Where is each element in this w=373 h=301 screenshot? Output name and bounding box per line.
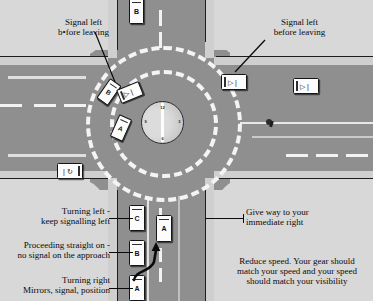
island-label-6: 6: [142, 136, 183, 141]
edge-line-west-top: [0, 56, 108, 57]
edge-line-south-left: [117, 190, 118, 301]
leader-give-way-tick: [243, 214, 244, 223]
centre-dash-w3: [0, 104, 22, 107]
lane-line-east: [240, 122, 373, 124]
vehicle-window: [296, 81, 298, 91]
annotation-turning-left: Turning left - keep signalling left: [12, 206, 110, 226]
centre-dash-w1: [34, 104, 56, 107]
centre-dash-e3: [346, 154, 368, 157]
vehicle-label: A: [114, 123, 128, 134]
marking-west-bottom: [8, 154, 86, 157]
verge-south-right: [205, 178, 214, 301]
leader-turning-right: [109, 288, 133, 289]
island-label-9: 9: [145, 119, 147, 124]
vehicle-indicator: ▷ |: [300, 83, 309, 90]
vehicle-window: [78, 166, 80, 176]
roundabout-diagram: 12 3 6 9 B B ▷ | A ▷ | ▷ | | ↻ C: [0, 0, 373, 301]
vehicle-window: [120, 119, 128, 124]
annotation-signal-left-before-leaving-right: Signal left before leaving: [247, 17, 352, 37]
vehicle-exit-right-2: ▷ |: [293, 78, 319, 94]
leader-signal-left-b: [95, 30, 125, 88]
vehicle-exit-right-1: ▷ |: [221, 74, 247, 90]
verge-west-top: [0, 57, 108, 65]
annotation-signal-left-before-leaving-left: Signal left b•fore leaving: [36, 17, 131, 37]
edge-line-south-right: [205, 190, 206, 301]
vehicle-window: [159, 219, 169, 221]
annotation-reduce-speed: Reduce speed. Your gear should match you…: [222, 256, 372, 286]
leader-signal-left-right: [229, 40, 269, 76]
annotation-turning-right: Turning right Mirrors, signal, position: [6, 275, 110, 295]
vehicle-label: B: [130, 8, 143, 15]
lane-line-east-2: [252, 136, 373, 138]
edge-line-east-bottom: [216, 178, 373, 179]
centre-dash-e1: [286, 154, 308, 157]
centre-dash-w2: [64, 104, 86, 107]
edge-line-north-right: [205, 0, 206, 42]
vehicle-window: [132, 2, 141, 4]
vehicle-indicator: ▷ |: [228, 79, 237, 86]
island-label-3: 3: [178, 119, 180, 124]
centre-dash-n1: [159, 10, 162, 26]
lane-change-arrow: [126, 228, 172, 286]
annotation-give-way: Give way to your immediate right: [246, 207, 356, 227]
vehicle-left-exit: | ↻: [57, 163, 83, 179]
edge-line-west-bottom: [0, 178, 108, 179]
vehicle-window: [224, 77, 226, 87]
vehicle-indicator: ▷ |: [123, 88, 134, 98]
centre-dash-e2: [316, 154, 338, 157]
vehicle-indicator: | ↻: [63, 168, 73, 175]
vehicle-window: [132, 209, 142, 211]
island-label-12: 12: [142, 105, 183, 110]
vehicle-top-b: B: [129, 0, 144, 24]
annotation-proceeding-straight-on: Proceeding straight on - no signal on th…: [2, 240, 110, 260]
leader-proceeding-straight: [109, 252, 133, 253]
leader-turning-left: [109, 218, 133, 219]
leader-give-way: [205, 218, 243, 219]
lane-divider-south-2: [178, 196, 180, 301]
verge-north-right: [205, 0, 214, 58]
marking-west-top: [8, 76, 86, 79]
central-island: 12 3 6 9: [141, 101, 184, 144]
